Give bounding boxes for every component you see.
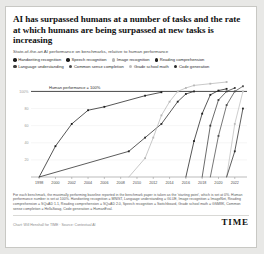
legend-row: Language understandingCommon sense compl… <box>13 64 249 69</box>
data-point <box>128 150 130 152</box>
data-point <box>193 140 195 142</box>
data-point <box>201 113 203 115</box>
human-performance-label: Human performance = 100% <box>49 85 101 90</box>
legend-label: Language understanding <box>18 64 64 69</box>
data-point <box>152 137 154 139</box>
data-point <box>226 104 228 106</box>
series-image-recognition <box>129 81 228 177</box>
y-axis-tick-label: 20 <box>25 158 29 162</box>
data-point <box>218 99 220 101</box>
x-axis-tick-label: 2010 <box>133 181 141 185</box>
plot-area: 20406080100%1998200020022004200620082010… <box>13 72 251 190</box>
legend-label: Handwriting recognition <box>18 57 61 62</box>
data-point <box>218 135 220 137</box>
data-point <box>177 90 179 92</box>
x-axis-tick-label: 2016 <box>182 181 190 185</box>
legend-marker-icon <box>13 58 17 62</box>
series-line <box>186 89 227 177</box>
legend-marker-icon <box>155 58 159 62</box>
x-axis-tick-label: 2012 <box>149 181 157 185</box>
credit-bar: Chart: Will Henshall for TIME · Source: … <box>13 215 249 228</box>
x-axis-tick-label: 2008 <box>117 181 125 185</box>
time-logo: TIME <box>221 218 249 227</box>
x-axis-tick-label: 1998 <box>35 181 43 185</box>
y-axis-tick-label: 100% <box>19 90 29 94</box>
data-point <box>234 150 236 152</box>
data-point <box>209 125 211 127</box>
series-grade-school-math <box>227 90 244 176</box>
data-point <box>161 123 163 125</box>
legend-item[interactable]: Language understanding <box>13 64 64 69</box>
series-reading-comprehension <box>186 88 228 177</box>
data-point <box>209 94 211 96</box>
legend-item[interactable]: Code generation <box>174 64 210 69</box>
data-point <box>209 83 211 85</box>
data-point <box>234 90 236 92</box>
series-line <box>39 91 194 177</box>
x-axis-tick-label: 2020 <box>214 181 222 185</box>
data-point <box>144 157 146 159</box>
data-point <box>193 90 195 92</box>
data-point <box>55 145 57 147</box>
legend-item[interactable]: Common sense completion <box>69 64 124 69</box>
legend-item[interactable]: Grade school math <box>129 64 169 69</box>
series-handwriting-recognition <box>39 91 162 177</box>
data-point <box>218 90 220 92</box>
x-axis-tick-label: 2000 <box>51 181 59 185</box>
series-line <box>39 92 161 177</box>
line-chart-svg: 20406080100%1998200020022004200620082010… <box>13 72 251 190</box>
chart-credit: Chart: Will Henshall for TIME · Source: … <box>13 223 96 227</box>
legend-marker-icon <box>129 65 133 69</box>
series-line <box>227 91 243 177</box>
legend-item[interactable]: Handwriting recognition <box>13 57 61 62</box>
x-axis-tick-label: 2006 <box>100 181 108 185</box>
x-axis-tick-label: 2018 <box>198 181 206 185</box>
x-axis-tick-label: 2002 <box>68 181 76 185</box>
data-point <box>161 91 163 93</box>
data-point <box>242 90 244 92</box>
chart-subtitle: State-of-the-art AI performance on bench… <box>13 49 249 54</box>
legend-marker-icon <box>13 65 17 69</box>
chart-card: AI has surpassed humans at a number of t… <box>5 6 257 248</box>
data-point <box>169 101 171 103</box>
chart-footnote: For each benchmark, the maximally perfor… <box>13 193 245 211</box>
data-point <box>144 137 146 139</box>
data-point <box>226 90 228 92</box>
data-point <box>185 93 187 95</box>
legend-label: Code generation <box>179 64 209 69</box>
data-point <box>185 87 187 89</box>
data-point <box>226 81 228 83</box>
page-title: AI has surpassed humans at a number of t… <box>13 14 249 46</box>
legend-label: Speech recognition <box>71 57 106 62</box>
data-point <box>144 95 146 97</box>
data-point <box>103 106 105 108</box>
y-axis-tick-label: 40 <box>25 141 29 145</box>
legend-label: Image recognition <box>117 57 150 62</box>
data-point <box>242 85 244 87</box>
series-line <box>210 86 243 177</box>
data-point <box>226 88 228 90</box>
legend-item[interactable]: Speech recognition <box>66 57 106 62</box>
x-axis-tick-label: 2004 <box>84 181 92 185</box>
data-point <box>87 109 89 111</box>
y-axis-tick-label: 60 <box>25 124 29 128</box>
series-code-generation <box>227 108 244 177</box>
data-point <box>242 108 244 110</box>
x-axis-tick-label: 2014 <box>165 181 173 185</box>
legend-label: Grade school math <box>134 64 169 69</box>
series-line <box>202 88 235 177</box>
legend-label: Reading comprehension <box>160 57 205 62</box>
data-point <box>193 84 195 86</box>
data-point <box>161 114 163 116</box>
y-axis-tick-label: 80 <box>25 107 29 111</box>
legend-row: Handwriting recognitionSpeech recognitio… <box>13 57 249 62</box>
legend-item[interactable]: Reading comprehension <box>155 57 205 62</box>
legend-label: Common sense completion <box>74 64 124 69</box>
legend-marker-icon <box>66 58 70 62</box>
data-point <box>234 87 236 89</box>
legend-item[interactable]: Image recognition <box>112 57 150 62</box>
data-point <box>234 123 236 125</box>
legend-marker-icon <box>69 65 73 69</box>
chart-legend: Handwriting recognitionSpeech recognitio… <box>13 57 249 69</box>
data-point <box>177 101 179 103</box>
